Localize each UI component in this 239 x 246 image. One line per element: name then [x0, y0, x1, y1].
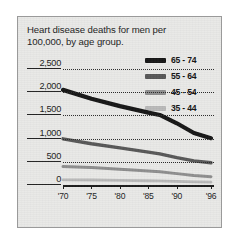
- x-axis-tick: [120, 185, 121, 189]
- x-axis-tick: [63, 185, 64, 189]
- legend-swatch-icon: [145, 58, 166, 63]
- x-axis-line: [63, 185, 214, 187]
- x-axis-label: '75: [86, 191, 97, 201]
- x-axis-label: '96: [206, 191, 217, 201]
- x-axis-tick: [91, 185, 92, 189]
- x-axis-tick: [211, 185, 212, 189]
- plot-area: 05001,0001,5002,0002,500'70'75'80'85'90'…: [29, 64, 214, 198]
- x-axis-tick: [177, 185, 178, 189]
- y-gridline: [63, 115, 214, 116]
- y-axis-label: 1,500: [27, 104, 61, 115]
- y-axis-label: 1,000: [27, 128, 61, 139]
- y-axis-label: 2,500: [27, 58, 61, 69]
- data-series-line: [63, 180, 211, 182]
- y-gridline: [63, 162, 214, 163]
- chart-figure: Heart disease deaths for men per 100,000…: [17, 16, 222, 228]
- data-series-line: [63, 139, 211, 163]
- y-axis-label: 500: [27, 151, 61, 162]
- chart-title: Heart disease deaths for men per 100,000…: [27, 24, 177, 48]
- data-series-line: [63, 166, 211, 176]
- x-axis-label: '90: [172, 191, 183, 201]
- x-axis-label: '85: [143, 191, 154, 201]
- data-series-line: [63, 90, 211, 138]
- y-gridline: [63, 139, 214, 140]
- y-axis-label: 0: [27, 174, 61, 185]
- y-gridline: [63, 92, 214, 93]
- y-gridline: [63, 69, 214, 70]
- x-axis-label: '80: [115, 191, 126, 201]
- y-axis-label: 2,000: [27, 81, 61, 92]
- x-axis-tick: [148, 185, 149, 189]
- x-axis-label: '70: [58, 191, 69, 201]
